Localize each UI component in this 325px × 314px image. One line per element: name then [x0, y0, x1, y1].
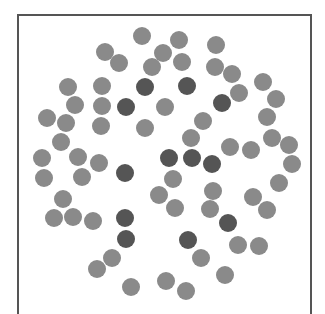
light-particle: [59, 78, 77, 96]
dark-particle: [116, 164, 134, 182]
light-particle: [230, 84, 248, 102]
light-particle: [201, 200, 219, 218]
light-particle: [150, 186, 168, 204]
light-particle: [93, 97, 111, 115]
light-particle: [283, 155, 301, 173]
light-particle: [38, 109, 56, 127]
light-particle: [258, 201, 276, 219]
light-particle: [45, 209, 63, 227]
light-particle: [242, 141, 260, 159]
dark-particle: [183, 149, 201, 167]
light-particle: [33, 149, 51, 167]
light-particle: [122, 278, 140, 296]
light-particle: [66, 96, 84, 114]
dark-particle: [116, 209, 134, 227]
dark-particle: [178, 77, 196, 95]
light-particle: [182, 129, 200, 147]
light-particle: [254, 73, 272, 91]
light-particle: [173, 53, 191, 71]
dark-particle: [117, 98, 135, 116]
dark-particle: [203, 155, 221, 173]
light-particle: [164, 170, 182, 188]
light-particle: [223, 65, 241, 83]
dark-particle: [117, 230, 135, 248]
light-particle: [216, 266, 234, 284]
light-particle: [229, 236, 247, 254]
light-particle: [64, 208, 82, 226]
light-particle: [93, 77, 111, 95]
light-particle: [170, 31, 188, 49]
light-particle: [133, 27, 151, 45]
light-particle: [103, 249, 121, 267]
light-particle: [280, 136, 298, 154]
light-particle: [92, 117, 110, 135]
dark-particle: [179, 231, 197, 249]
light-particle: [35, 169, 53, 187]
light-particle: [52, 133, 70, 151]
light-particle: [263, 129, 281, 147]
light-particle: [204, 182, 222, 200]
light-particle: [157, 272, 175, 290]
dark-particle: [219, 214, 237, 232]
light-particle: [69, 148, 87, 166]
light-particle: [90, 154, 108, 172]
light-particle: [73, 168, 91, 186]
light-particle: [258, 108, 276, 126]
dark-particle: [160, 149, 178, 167]
dark-particle: [136, 78, 154, 96]
light-particle: [143, 58, 161, 76]
light-particle: [156, 98, 174, 116]
light-particle: [166, 199, 184, 217]
light-particle: [267, 90, 285, 108]
light-particle: [206, 58, 224, 76]
dark-particle: [213, 94, 231, 112]
light-particle: [54, 190, 72, 208]
light-particle: [192, 249, 210, 267]
light-particle: [221, 138, 239, 156]
light-particle: [88, 260, 106, 278]
light-particle: [110, 54, 128, 72]
light-particle: [207, 36, 225, 54]
light-particle: [136, 119, 154, 137]
light-particle: [84, 212, 102, 230]
light-particle: [57, 114, 75, 132]
light-particle: [194, 112, 212, 130]
light-particle: [177, 282, 195, 300]
light-particle: [270, 174, 288, 192]
light-particle: [250, 237, 268, 255]
